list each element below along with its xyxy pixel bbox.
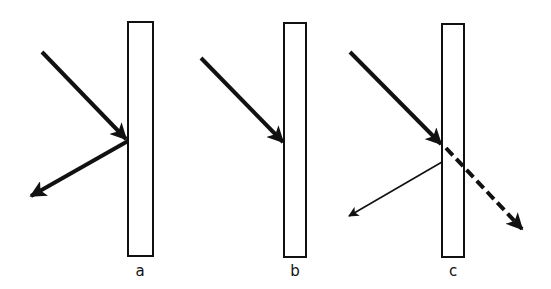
- panel-label-c: c: [449, 262, 457, 280]
- incident-ray-a: [42, 52, 126, 139]
- panel-c: [349, 24, 522, 257]
- panel-b: [201, 23, 306, 257]
- panel-a: [31, 22, 153, 256]
- reflected-ray-a: [31, 141, 128, 196]
- reflected-ray-c: [349, 162, 442, 216]
- slab-b: [284, 23, 306, 257]
- slab-a: [128, 22, 153, 256]
- diagram-canvas: [0, 0, 551, 289]
- incident-ray-c: [350, 52, 441, 144]
- panel-label-a: a: [135, 262, 144, 280]
- panel-label-b: b: [290, 262, 300, 280]
- slab-c: [442, 24, 464, 257]
- incident-ray-b: [201, 58, 283, 142]
